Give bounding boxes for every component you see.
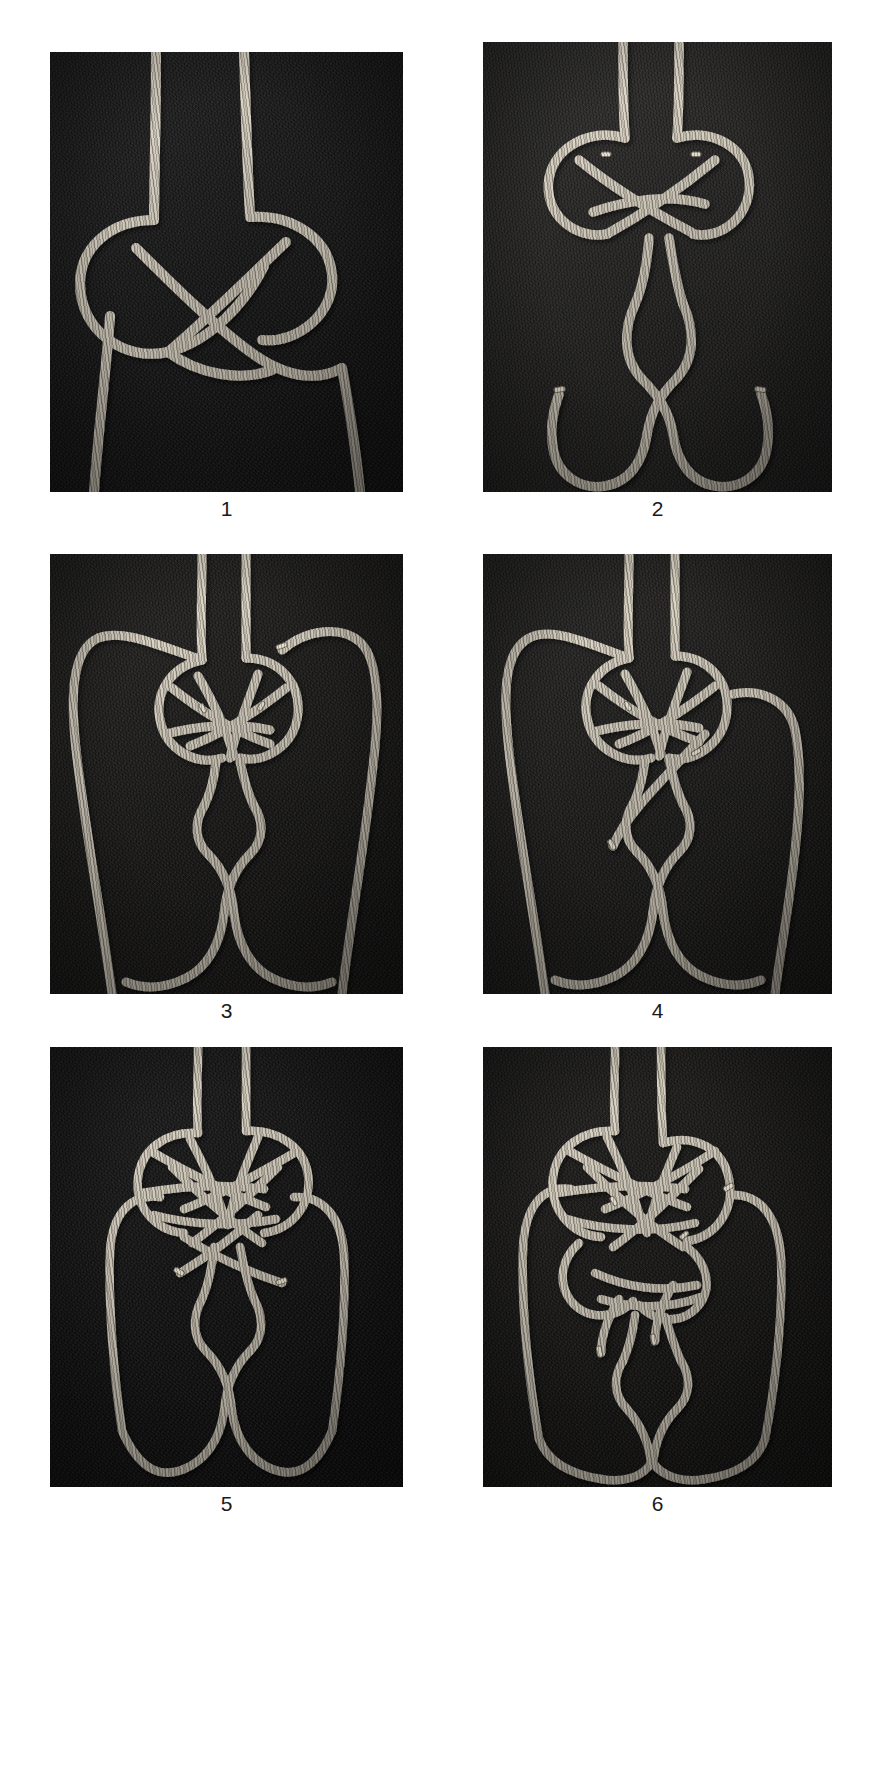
- caption-5: 5: [50, 1493, 403, 1514]
- photo-2: [483, 42, 832, 492]
- rope-illustration-6: [483, 1047, 832, 1487]
- figure-1: [50, 52, 403, 492]
- figure-5: [50, 1047, 403, 1487]
- plate-canvas: 1: [0, 0, 876, 1786]
- rope-illustration-3: [50, 554, 403, 994]
- photo-3: [50, 554, 403, 994]
- caption-1: 1: [50, 498, 403, 519]
- photo-4: [483, 554, 832, 994]
- figure-3: [50, 554, 403, 994]
- caption-4: 4: [483, 1000, 832, 1021]
- rope-illustration-1: [50, 52, 403, 492]
- figure-6: [483, 1047, 832, 1487]
- rope-illustration-2: [483, 42, 832, 492]
- caption-6: 6: [483, 1493, 832, 1514]
- figure-4: [483, 554, 832, 994]
- rope-illustration-4: [483, 554, 832, 994]
- figure-2: [483, 42, 832, 492]
- photo-1: [50, 52, 403, 492]
- caption-2: 2: [483, 498, 832, 519]
- photo-5: [50, 1047, 403, 1487]
- rope-illustration-5: [50, 1047, 403, 1487]
- photo-6: [483, 1047, 832, 1487]
- caption-3: 3: [50, 1000, 403, 1021]
